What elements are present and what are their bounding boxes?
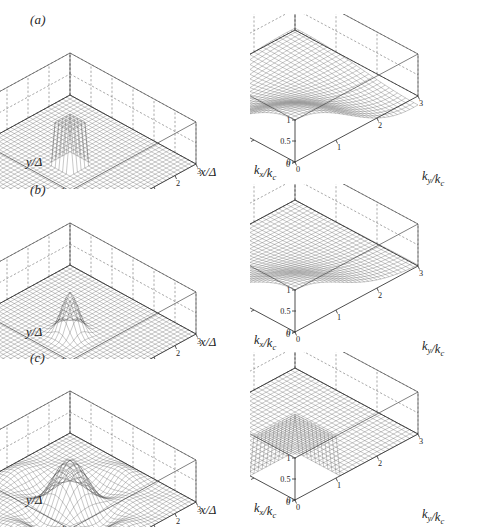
xtick-1R-3: 3 [419, 269, 423, 278]
ztick-2L-2: 1 [61, 525, 65, 527]
ytick-0R-0: 0 [286, 160, 290, 169]
axis-label-y-2: y/Δ [24, 493, 42, 507]
surface-plot-1L: 00.51-3-2-10123-202y/Δx/Δ [0, 184, 250, 359]
surface-plot-0R: 00.5101230123kx/kcky/kc [250, 14, 495, 189]
surface-plot-2L: 00.51-3-2-10123-202y/Δx/Δ [0, 352, 250, 527]
axis-label-y-0: y/Δ [24, 155, 42, 169]
ztick-0R-1: 0.5 [280, 137, 290, 146]
figure-root: (a)00.51-3-2-10123-202y/Δx/Δ00.510123012… [0, 0, 495, 531]
ztick-0R-2: 1 [286, 116, 290, 125]
surface-plot-0L: 00.51-3-2-10123-202y/Δx/Δ [0, 14, 250, 189]
panel-c-spectral: 00.5101230123kx/kcky/kc [250, 352, 495, 527]
xtick-2R-1: 1 [337, 481, 341, 490]
panel-a-physical: 00.51-3-2-10123-202y/Δx/Δ [0, 14, 250, 189]
xtick-0R-2: 2 [378, 121, 382, 130]
xtick-0R-0: 0 [296, 165, 300, 174]
axis-label-x-0: x/Δ [199, 165, 216, 179]
surface-plot-1R: 00.5101230123kx/kcky/kc [250, 184, 495, 359]
ytick-2R-0: 0 [286, 498, 290, 507]
axis-label-x-2: x/Δ [199, 503, 216, 517]
xtick-0R-3: 3 [419, 99, 423, 108]
axis-label-ky-2: ky/kc [422, 507, 444, 526]
panel-c-physical: 00.51-3-2-10123-202y/Δx/Δ [0, 352, 250, 527]
ytick-1R-0: 0 [286, 330, 290, 339]
axis-label-kx-1: kx/kc [254, 333, 276, 352]
axis-label-x-1: x/Δ [199, 335, 216, 349]
xtick-1R-1: 1 [337, 313, 341, 322]
surface-plot-2R: 00.5101230123kx/kcky/kc [250, 352, 495, 527]
xtick-2L-5: 2 [176, 517, 180, 526]
xtick-0R-1: 1 [337, 143, 341, 152]
xtick-2R-0: 0 [296, 503, 300, 512]
ztick-2R-2: 1 [286, 454, 290, 463]
ztick-1R-2: 1 [286, 286, 290, 295]
panel-a-spectral: 00.5101230123kx/kcky/kc [250, 14, 495, 189]
ztick-1R-1: 0.5 [280, 307, 290, 316]
axis-label-kx-0: kx/kc [254, 163, 276, 182]
xtick-1R-2: 2 [378, 291, 382, 300]
ztick-2R-1: 0.5 [280, 475, 290, 484]
xtick-2R-2: 2 [378, 459, 382, 468]
axis-label-y-1: y/Δ [24, 325, 42, 339]
axis-label-kx-2: kx/kc [254, 501, 276, 520]
panel-b-physical: 00.51-3-2-10123-202y/Δx/Δ [0, 184, 250, 359]
xtick-1R-0: 0 [296, 335, 300, 344]
xtick-2R-3: 3 [419, 437, 423, 446]
panel-b-spectral: 00.5101230123kx/kcky/kc [250, 184, 495, 359]
